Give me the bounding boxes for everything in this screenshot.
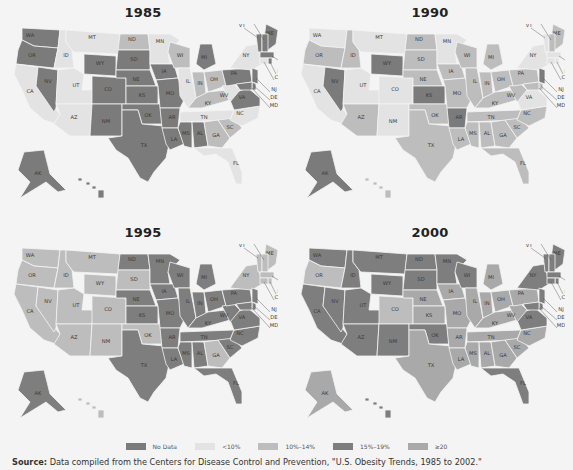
state-label: AZ — [70, 334, 78, 340]
legend-label: No Data — [153, 443, 177, 450]
state-label: IN — [197, 300, 203, 306]
state-label: NJ — [558, 86, 564, 93]
state-label: TN — [486, 334, 494, 340]
state-label: IL — [186, 298, 191, 304]
state-ri — [268, 278, 272, 284]
state-nj — [252, 68, 258, 84]
state-label: DE — [270, 94, 277, 100]
legend-item-no-data: No Data — [126, 443, 177, 450]
state-hi — [78, 178, 104, 198]
state-label: WY — [96, 60, 105, 66]
state-label: NJ — [558, 306, 564, 313]
state-label: TN — [199, 114, 207, 120]
state-label: NJ — [271, 86, 277, 93]
state-label: AL — [197, 350, 204, 356]
state-label: ID — [63, 272, 69, 278]
state-label: AZ — [357, 114, 365, 120]
state-label: MS — [182, 130, 190, 136]
state-label: MT — [88, 254, 96, 260]
state-label: MT — [375, 34, 383, 40]
state-label: LA — [171, 136, 178, 142]
state-label: IL — [473, 298, 478, 304]
state-label: SC — [227, 124, 234, 130]
state-label: OR — [28, 272, 36, 278]
state-label: AK — [35, 390, 43, 396]
state-label: KS — [426, 92, 433, 98]
state-label: NY — [529, 52, 537, 58]
legend-label: <10% — [222, 443, 240, 450]
state-label: IL — [186, 78, 191, 84]
state-label: NY — [242, 272, 250, 278]
state-label: SC — [514, 124, 521, 130]
state-label: AK — [35, 170, 43, 176]
state-label: DE — [557, 314, 564, 320]
state-hi — [78, 398, 104, 418]
state-label: MO — [166, 310, 175, 316]
state-nj — [539, 288, 545, 304]
state-ma — [547, 272, 561, 278]
state-label: OR — [28, 52, 36, 58]
state-label: SC — [227, 344, 234, 350]
legend-swatch — [258, 443, 278, 450]
state-label: IL — [473, 78, 478, 84]
state-label: WV — [220, 312, 229, 318]
state-label: MD — [557, 102, 565, 108]
state-label: WY — [383, 60, 392, 66]
state-label: OK — [431, 112, 439, 118]
state-label: TX — [140, 142, 148, 148]
state-label: UT — [73, 82, 81, 88]
state-label: LA — [171, 356, 178, 362]
legend-label: ≥20 — [435, 443, 448, 450]
state-label: IN — [484, 300, 490, 306]
state-label: NC — [523, 110, 531, 116]
state-ma — [547, 52, 561, 58]
state-label: VA — [239, 314, 246, 320]
state-label: DE — [270, 314, 277, 320]
legend-item-10-14: 10%–14% — [258, 443, 315, 450]
state-label: FL — [520, 160, 526, 166]
state-label: NC — [236, 330, 244, 336]
state-label: WA — [313, 32, 322, 38]
state-label: NV — [331, 78, 339, 84]
state-label: NM — [102, 118, 110, 124]
state-label: MN — [156, 258, 164, 264]
state-label: GA — [212, 132, 220, 138]
state-label: VT — [239, 24, 247, 28]
state-label: DE — [557, 94, 564, 100]
state-ct — [260, 58, 268, 64]
state-label: MD — [557, 322, 565, 328]
state-label: FL — [233, 160, 239, 166]
state-label: IA — [161, 288, 167, 294]
state-label: ND — [128, 256, 136, 262]
state-label: MN — [156, 38, 164, 44]
state-label: WI — [464, 272, 471, 278]
state-label: MI — [201, 274, 207, 280]
state-label: CO — [391, 306, 399, 312]
state-label: TX — [140, 362, 148, 368]
state-label: KS — [139, 312, 146, 318]
state-ak — [18, 150, 66, 198]
state-label: IA — [448, 68, 454, 74]
state-label: KS — [139, 92, 146, 98]
state-nh — [549, 34, 555, 52]
state-label: KY — [205, 320, 212, 326]
state-ri — [555, 278, 559, 284]
state-label: AK — [322, 390, 330, 396]
state-label: MI — [201, 54, 207, 60]
state-label: CT — [275, 74, 278, 80]
state-label: CA — [313, 308, 321, 314]
map-panel-1985: 1985 WAORCANVIDMTWYUTCOAZNMNDSDNEKSOKTXM… — [0, 0, 286, 215]
state-label: OH — [210, 76, 218, 82]
state-label: MD — [270, 322, 278, 328]
source-text: Data compiled from the Centers for Disea… — [47, 457, 482, 467]
state-label: SD — [130, 56, 137, 62]
state-ak — [305, 370, 353, 418]
state-label: KS — [426, 312, 433, 318]
state-label: OH — [210, 296, 218, 302]
state-label: MS — [469, 130, 477, 136]
state-label: WI — [177, 272, 184, 278]
legend-swatch — [126, 443, 146, 450]
state-label: SC — [514, 344, 521, 350]
state-label: WY — [96, 280, 105, 286]
legend-swatch — [333, 443, 353, 450]
